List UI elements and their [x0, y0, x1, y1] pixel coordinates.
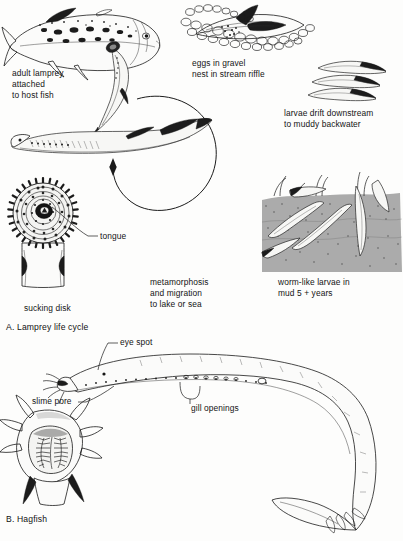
- panel-b-caption: B. Hagfish: [6, 514, 47, 524]
- hagfish-mouth-detail-illustration: [0, 0, 403, 541]
